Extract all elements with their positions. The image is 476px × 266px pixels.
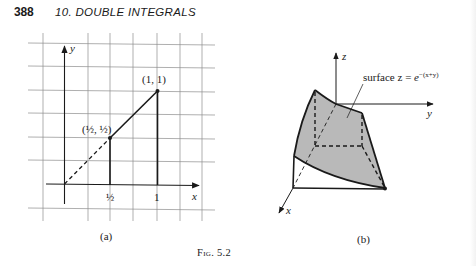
grid-line-h	[28, 160, 215, 162]
base-edge-left	[293, 156, 294, 188]
figure-caption: Fig. 5.2	[197, 247, 231, 258]
subfigure-label-a: (a)	[100, 230, 112, 242]
z-axis-label: z	[341, 50, 347, 62]
point-half	[108, 136, 112, 140]
figure-canvas: y x ½ 1 (½, ½) (1, 1) z y	[0, 0, 476, 266]
surface-label-exponent: −(x+y)	[419, 71, 439, 79]
figure-b: z y x surface z = e−(x+y)	[279, 50, 439, 216]
surface-label-text: surface z =	[363, 71, 414, 83]
x-axis-label: x	[191, 190, 197, 202]
point-half-label: (½, ½)	[82, 123, 112, 136]
tick-label-one: 1	[154, 191, 160, 203]
grid-line-h	[28, 137, 215, 139]
point-one	[156, 89, 160, 93]
subfigure-label-b: (b)	[357, 233, 370, 245]
x-axis	[46, 184, 199, 186]
grid-line-h	[28, 208, 215, 210]
grid-line-h	[28, 90, 215, 92]
point-one-label: (1, 1)	[142, 73, 166, 86]
figure-a: y x ½ 1 (½, ½) (1, 1)	[28, 33, 215, 221]
tick-label-half: ½	[106, 191, 114, 203]
surface-label: surface z = e−(x+y)	[363, 71, 439, 83]
grid-line-h	[28, 66, 215, 68]
y-axis-label-3d: y	[426, 107, 432, 119]
x-axis-label-3d: x	[285, 204, 291, 216]
grid-line-h	[28, 113, 215, 115]
base-edge-front	[293, 188, 385, 189]
y-axis-label: y	[69, 42, 75, 54]
grid-line-h	[28, 43, 215, 45]
corner-point	[383, 187, 387, 191]
